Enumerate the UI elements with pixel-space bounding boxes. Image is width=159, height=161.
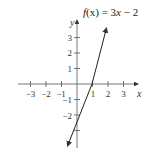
x-tick-label: 2 bbox=[106, 89, 111, 99]
y-tick-label: 2 bbox=[68, 48, 73, 58]
x-tick-label: 3 bbox=[121, 89, 126, 99]
function-graph: −3 −2 −1 1 2 3 3 2 1 −1 −2 x y f(x) = 3x… bbox=[0, 0, 159, 161]
y-axis-label: y bbox=[69, 17, 75, 28]
function-line bbox=[92, 28, 107, 84]
y-tick-label: −2 bbox=[62, 111, 72, 121]
y-tick-label: −1 bbox=[62, 95, 72, 105]
y-tick-label: 1 bbox=[68, 64, 73, 74]
x-tick-label: −3 bbox=[26, 89, 36, 99]
y-tick-label: 3 bbox=[68, 33, 73, 43]
x-axis-label: x bbox=[136, 88, 142, 99]
function-title: f(x) = 3x − 2 bbox=[83, 6, 138, 19]
x-tick-label: −2 bbox=[41, 89, 51, 99]
x-tick-label: 1 bbox=[91, 89, 96, 99]
